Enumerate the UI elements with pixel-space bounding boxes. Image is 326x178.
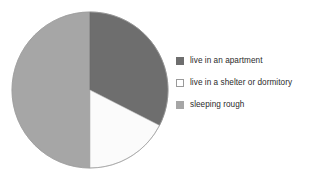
legend-item-shelter[interactable]: live in a shelter or dormitory [176,72,326,94]
pie-chart-figure: live in an apartment live in a shelter o… [0,0,326,178]
legend-swatch-rough [176,101,184,109]
legend-label-apartment: live in an apartment [190,56,262,66]
legend-item-apartment[interactable]: live in an apartment [176,50,326,72]
pie-slice-sleeping-rough [12,12,90,168]
legend-label-shelter: live in a shelter or dormitory [190,78,292,88]
chart-legend: live in an apartment live in a shelter o… [176,50,326,116]
legend-label-sleeping-rough: sleeping rough [190,100,244,110]
legend-swatch-apartment [176,57,184,65]
legend-swatch-shelter [176,79,184,87]
pie-chart-plot-area [0,0,180,178]
pie-chart-svg [0,0,180,178]
legend-item-sleeping-rough[interactable]: sleeping rough [176,94,326,116]
